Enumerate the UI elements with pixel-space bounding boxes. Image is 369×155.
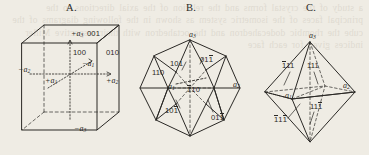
panel-b-axis-label-a1: a1	[168, 82, 175, 91]
axis-label-minus-a2: −a2	[18, 65, 31, 74]
face-index-01-1bar: 011	[211, 113, 224, 122]
axis-label-plus-a2: +a2	[106, 76, 119, 85]
face-index-100: 100	[73, 48, 86, 57]
face-index-10-1bar: 101	[165, 106, 178, 115]
panel-a-axis-ticks	[68, 40, 111, 76]
panel-b-axis-label-a2: a2	[233, 80, 240, 89]
axis-label-plus-a3: +a3	[71, 29, 84, 38]
crystallography-figure: A. B. C. +a3 001 100 010 −a2 +a2 +a1 −a1…	[0, 0, 369, 155]
panel-letter-a: A.	[66, 2, 77, 13]
panel-c-octahedron	[265, 42, 355, 142]
face-index-11-1bar: 111	[310, 102, 322, 111]
axis-label-plus-a1: +a1	[45, 76, 58, 85]
face-index-001: 001	[87, 29, 100, 38]
axis-label-minus-a3: −a3	[74, 124, 87, 133]
panel-b-axis-label-a3: a3	[189, 30, 196, 39]
face-index-101: 101	[170, 59, 183, 68]
face-index-1bar11: 111	[282, 61, 294, 70]
panel-letter-c: C.	[306, 2, 316, 13]
panel-letter-b: B.	[186, 2, 196, 13]
panel-c-axis-label-a2: a2	[343, 81, 350, 90]
axis-label-minus-a1: −a1	[82, 59, 95, 68]
face-index-110: 110	[152, 68, 164, 77]
face-index-011-bar: 011	[200, 55, 213, 64]
panel-a-axes	[30, 41, 110, 120]
face-index-1bar10: 110	[187, 85, 200, 94]
face-index-111: 111	[307, 61, 319, 70]
panel-c-axis-label-a1: a1	[285, 91, 292, 100]
face-index-1bar1-1bar: 111	[274, 115, 287, 124]
face-index-010: 010	[106, 48, 119, 57]
panel-c-axis-label-a3: a3	[309, 31, 316, 40]
